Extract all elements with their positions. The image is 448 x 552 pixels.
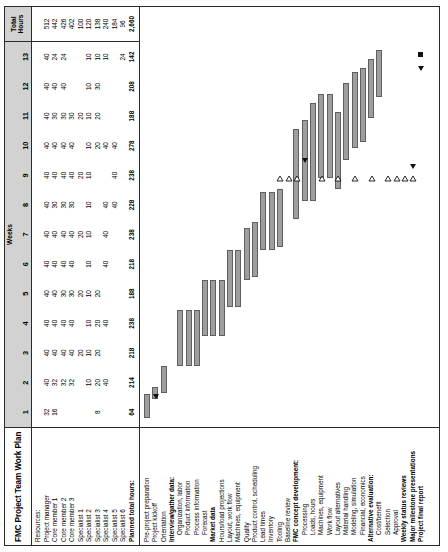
task-label: Forecast xyxy=(201,428,209,542)
task-label: Process information xyxy=(193,428,201,542)
resource-hours-cell: 40 xyxy=(51,172,60,179)
resource-hours-cell: 142 xyxy=(128,52,137,63)
resource-hours-cell: 10 xyxy=(85,142,94,149)
gantt-bar[interactable] xyxy=(269,192,275,250)
resource-hours-cell: 32 xyxy=(68,379,77,386)
task-label: Loads, hours xyxy=(309,428,317,542)
resource-total-cell: 426 xyxy=(60,19,69,30)
gantt-row xyxy=(359,41,367,427)
task-label: Approval xyxy=(392,428,400,542)
gantt-row xyxy=(384,41,392,427)
resource-week-column-13: 40242410101024142 xyxy=(34,42,139,72)
resource-hours-cell: 40 xyxy=(43,231,52,238)
gantt-bar[interactable] xyxy=(252,222,258,277)
resource-hours-cell: 10 xyxy=(85,379,94,386)
gantt-row xyxy=(284,41,292,427)
gantt-bar[interactable] xyxy=(310,103,316,201)
resource-label: Specialist 4 xyxy=(102,428,111,542)
resource-week-column-6: 404040401040218 xyxy=(34,249,139,279)
gantt-bar[interactable] xyxy=(161,366,167,393)
gantt-bar[interactable] xyxy=(177,310,183,366)
spacer-cell xyxy=(34,352,43,354)
weeks-header: Weeks 12345678910111213 xyxy=(5,41,31,427)
resource-total-cell: 512 xyxy=(43,19,52,30)
resource-hours-cell: 10 xyxy=(85,172,94,179)
resource-hours-cell: 20 xyxy=(94,320,103,327)
resource-hours-cell: 40 xyxy=(68,231,77,238)
resource-week-column-8: 40303030104040228 xyxy=(34,190,139,220)
week-number-8: 8 xyxy=(21,190,30,220)
resource-hours-cell: 20 xyxy=(77,172,86,179)
week-number-1: 1 xyxy=(21,397,30,427)
resource-hours-cell: 40 xyxy=(43,349,52,356)
gantt-bar[interactable] xyxy=(360,68,366,142)
resource-hours-cell: 32 xyxy=(43,409,52,416)
gantt-bar[interactable] xyxy=(293,129,299,220)
gantt-bar[interactable] xyxy=(144,394,150,418)
resource-hours-cell: 238 xyxy=(128,318,137,329)
resource-label: Specialist 2 xyxy=(85,428,94,542)
filled-triangle-marker xyxy=(417,65,425,72)
gantt-bar[interactable] xyxy=(376,50,382,98)
resource-week-column-12: 4040401030208 xyxy=(34,72,139,102)
gantt-bar[interactable] xyxy=(194,310,200,366)
resource-total-column: 512442426402100120138240184962,660 xyxy=(32,7,139,41)
task-label: Hours/load projections xyxy=(218,428,226,542)
weeks-label: Weeks xyxy=(6,42,13,427)
gantt-bar[interactable] xyxy=(244,228,250,280)
gantt-bar[interactable] xyxy=(327,94,333,177)
resource-hours-cell: 30 xyxy=(60,290,69,297)
gantt-bar[interactable] xyxy=(368,59,374,118)
resource-week-column-3: 40404040201020218 xyxy=(34,338,139,368)
resource-name-column: Resources:Project managerCore member 1Co… xyxy=(32,427,139,545)
resource-label: Specialist 6 xyxy=(119,428,128,542)
resource-hours-cell: 40 xyxy=(111,142,120,149)
gantt-row xyxy=(276,41,284,427)
gantt-bar[interactable] xyxy=(202,280,208,336)
gantt-row xyxy=(334,41,342,427)
gantt-row xyxy=(367,41,375,427)
task-label: Layout, work flow xyxy=(226,428,234,542)
gantt-row xyxy=(375,41,383,427)
gantt-bar[interactable] xyxy=(235,250,241,306)
resource-hours-cell: 20 xyxy=(77,113,86,120)
resources-block: Resources:Project managerCore member 1Co… xyxy=(32,7,140,545)
resource-hours-cell: 40 xyxy=(102,320,111,327)
week-number-4: 4 xyxy=(21,309,30,339)
resource-hours-cell: 32 xyxy=(60,379,69,386)
task-label: Baseline review xyxy=(284,428,292,542)
gantt-bar[interactable] xyxy=(352,72,358,148)
gantt-bar[interactable] xyxy=(277,189,283,247)
gantt-bar[interactable] xyxy=(343,83,349,160)
spacer-cell xyxy=(34,204,43,206)
gantt-bar[interactable] xyxy=(318,94,324,177)
task-label: Layout alternatives xyxy=(334,428,342,542)
task-label: Organization, labor xyxy=(176,428,184,542)
gantt-row xyxy=(392,41,400,427)
resource-hours-cell: 40 xyxy=(68,349,77,356)
spacer-cell xyxy=(34,382,43,384)
task-label: Inventory xyxy=(267,428,275,542)
resource-week-column-4: 40404040102040238 xyxy=(34,309,139,339)
resources-heading: Resources: xyxy=(34,428,43,542)
task-label: Project final report xyxy=(417,428,425,542)
resource-hours-cell: 40 xyxy=(60,172,69,179)
week-number-2: 2 xyxy=(21,368,30,398)
task-label: Cost/benefit xyxy=(375,428,383,542)
gantt-bar[interactable] xyxy=(219,280,225,336)
resource-total-cell: 120 xyxy=(85,19,94,30)
resource-week-column-11: 40303030201020188 xyxy=(34,101,139,131)
gantt-bar[interactable] xyxy=(260,192,266,250)
resource-hours-cell: 10 xyxy=(85,113,94,120)
gantt-row xyxy=(168,41,176,427)
gantt-bar[interactable] xyxy=(210,280,216,336)
spacer-cell xyxy=(34,174,43,176)
gantt-bar[interactable] xyxy=(186,310,192,366)
gantt-bar[interactable] xyxy=(227,250,233,306)
resource-hours-cell: 30 xyxy=(60,113,69,120)
task-label: Quality xyxy=(243,428,251,542)
resource-hours-cell: 214 xyxy=(128,377,137,388)
resource-hours-cell: 20 xyxy=(94,349,103,356)
resource-hours-cell: 10 xyxy=(102,53,111,60)
task-label: FMC concept development: xyxy=(292,428,300,542)
